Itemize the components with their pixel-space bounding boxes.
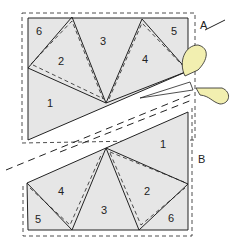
svg-text:5: 5 — [35, 213, 41, 225]
paper-piecing-diagram: 6 2 3 4 5 1 A 1 2 3 4 5 6 B — [0, 0, 234, 248]
svg-text:2: 2 — [58, 55, 64, 67]
label-b: B — [198, 153, 205, 165]
svg-text:6: 6 — [168, 212, 174, 224]
svg-text:6: 6 — [36, 25, 42, 37]
svg-text:2: 2 — [144, 185, 150, 197]
svg-text:3: 3 — [100, 35, 106, 47]
svg-text:5: 5 — [171, 25, 177, 37]
svg-text:4: 4 — [58, 185, 64, 197]
svg-text:1: 1 — [47, 97, 53, 109]
svg-text:3: 3 — [101, 204, 107, 216]
svg-text:4: 4 — [142, 53, 148, 65]
svg-text:1: 1 — [160, 138, 166, 150]
